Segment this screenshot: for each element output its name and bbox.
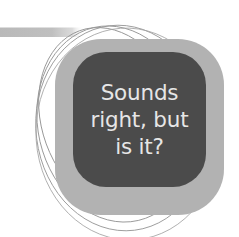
callout-text-line-1: Sounds — [91, 79, 189, 106]
callout-text: Sounds right, but is it? — [86, 79, 194, 161]
illustration-canvas: Sounds right, but is it? — [0, 0, 239, 237]
callout-text-line-2: right, but — [91, 106, 189, 133]
horizontal-gray-band — [0, 28, 84, 38]
callout-inner-panel: Sounds right, but is it? — [73, 52, 206, 187]
callout-text-line-3: is it? — [91, 133, 189, 160]
